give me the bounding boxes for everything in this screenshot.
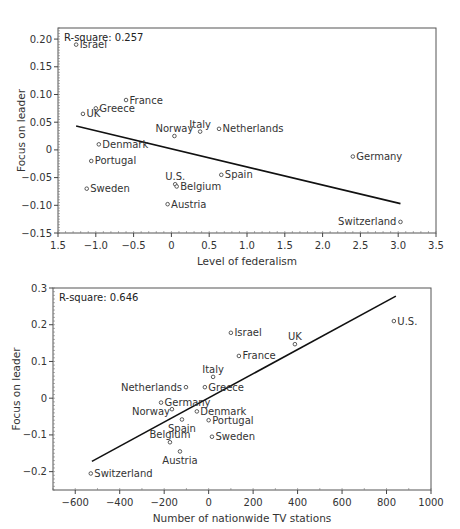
point-label: Israel <box>234 327 261 338</box>
point-marker-icon <box>178 450 182 454</box>
data-point: Portugal <box>89 155 136 166</box>
data-point: Belgium <box>175 181 221 192</box>
point-marker-icon <box>210 435 214 439</box>
point-label: Portugal <box>212 415 253 426</box>
data-point: Israel <box>74 39 107 50</box>
x-tick-label: −1.0 <box>84 240 108 251</box>
point-label: Italy <box>189 119 211 130</box>
point-label: Austria <box>171 199 206 210</box>
point-label: Greece <box>208 382 244 393</box>
x-axis-title: Level of federalism <box>197 255 297 267</box>
point-label: U.S. <box>397 316 417 327</box>
y-tick-label: −0.05 <box>21 172 52 183</box>
point-marker-icon <box>175 185 179 189</box>
x-tick-label: 3.0 <box>390 240 406 251</box>
point-marker-icon <box>184 385 188 389</box>
x-tick-label: 1.0 <box>239 240 255 251</box>
data-point: Sweden <box>210 431 255 442</box>
point-marker-icon <box>351 155 355 159</box>
x-tick-label: 0.5 <box>201 240 217 251</box>
point-marker-icon <box>293 342 297 346</box>
y-tick-label: 0.05 <box>30 117 52 128</box>
point-marker-icon <box>166 202 170 206</box>
y-tick-label: −0.10 <box>21 200 52 211</box>
x-tick-label: 1000 <box>418 497 443 508</box>
data-point: Spain <box>219 169 252 180</box>
point-marker-icon <box>203 385 207 389</box>
x-tick-label: 2.0 <box>315 240 331 251</box>
point-label: Spain <box>168 423 196 434</box>
x-tick-label: 1.5 <box>277 240 293 251</box>
point-label: Denmark <box>102 139 148 150</box>
x-tick-label: 800 <box>377 497 396 508</box>
y-tick-label: −0.15 <box>21 228 52 239</box>
data-point: Denmark <box>97 139 148 150</box>
point-marker-icon <box>207 418 211 422</box>
point-label: Italy <box>202 364 224 375</box>
point-marker-icon <box>198 130 202 134</box>
point-marker-icon <box>159 401 163 405</box>
data-point: Italy <box>202 364 224 379</box>
point-marker-icon <box>237 354 241 358</box>
point-marker-icon <box>399 220 403 224</box>
point-label: Germany <box>356 151 402 162</box>
point-marker-icon <box>85 187 89 191</box>
point-label: Austria <box>162 455 197 466</box>
point-marker-icon <box>173 134 177 138</box>
x-tick-label: −400 <box>106 497 133 508</box>
x-tick-label: 3.5 <box>428 240 444 251</box>
point-label: Netherlands <box>223 123 284 134</box>
data-point: Austria <box>162 450 197 467</box>
y-tick-label: 0 <box>41 393 47 404</box>
point-label: Israel <box>80 39 107 50</box>
point-label: Sweden <box>90 183 130 194</box>
data-point: Netherlands <box>121 382 188 393</box>
y-axis-title: Focus on leader <box>10 347 22 431</box>
x-tick-label: 200 <box>244 497 263 508</box>
data-point: U.S. <box>392 316 417 327</box>
data-point: Switzerland <box>338 216 402 227</box>
point-label: Spain <box>225 169 253 180</box>
point-label: Netherlands <box>121 382 182 393</box>
y-tick-label: 0.1 <box>31 356 47 367</box>
data-point: UK <box>81 108 101 119</box>
point-marker-icon <box>124 98 128 102</box>
data-point: Spain <box>168 418 196 435</box>
x-tick-label: −0.5 <box>121 240 145 251</box>
x-tick-label: 0 <box>168 240 174 251</box>
x-tick-label: 600 <box>333 497 352 508</box>
data-point: Israel <box>229 327 262 338</box>
x-tick-label: 0 <box>205 497 211 508</box>
data-point: Portugal <box>207 415 254 426</box>
data-point: France <box>237 350 276 361</box>
data-point: Sweden <box>85 183 130 194</box>
point-label: France <box>242 350 275 361</box>
y-axis-title: Focus on leader <box>15 88 27 172</box>
point-label: Greece <box>99 103 135 114</box>
point-marker-icon <box>219 173 223 177</box>
data-point: UK <box>288 331 302 346</box>
point-label: Switzerland <box>338 216 396 227</box>
point-marker-icon <box>229 331 233 335</box>
point-marker-icon <box>97 143 101 147</box>
point-label: Belgium <box>180 181 221 192</box>
x-tick-label: −200 <box>150 497 177 508</box>
data-point: Greece <box>203 382 244 393</box>
data-point: Austria <box>166 199 207 210</box>
scatter-charts: −0.15−0.10−0.0500.050.100.150.201.5−1.0−… <box>0 0 460 529</box>
point-marker-icon <box>168 440 172 444</box>
y-tick-label: 0.2 <box>31 319 47 330</box>
y-tick-label: 0.20 <box>30 34 52 45</box>
point-marker-icon <box>89 472 93 476</box>
point-label: UK <box>86 108 100 119</box>
y-tick-label: 0 <box>46 144 52 155</box>
x-tick-label: 1.5 <box>50 240 66 251</box>
data-point: Germany <box>351 151 402 162</box>
point-marker-icon <box>74 43 78 47</box>
point-label: UK <box>288 331 302 342</box>
federalism-scatter-chart: −0.15−0.10−0.0500.050.100.150.201.5−1.0−… <box>15 28 444 267</box>
point-marker-icon <box>180 418 184 422</box>
y-tick-label: 0.15 <box>30 61 52 72</box>
point-label: Norway <box>155 123 193 134</box>
point-marker-icon <box>195 410 199 414</box>
